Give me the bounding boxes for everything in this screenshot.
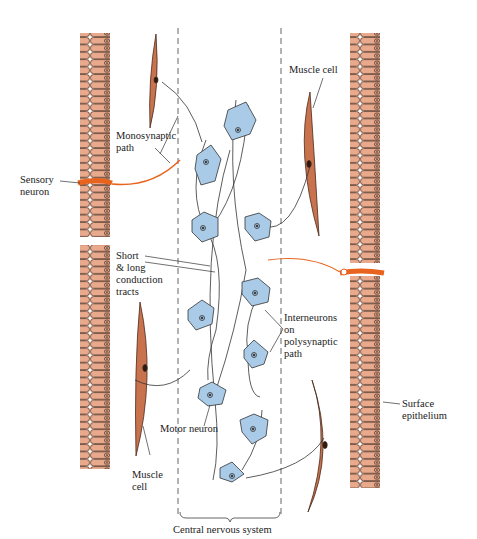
label-central-nervous-system: Central nervous system [173,524,272,536]
label-short-long-tracts: Short & long conduction tracts [116,250,163,298]
muscle-cells [136,34,328,512]
cns-boundary [178,28,281,522]
diagram-canvas [0,0,477,539]
label-surface-epithelium: Surface epithelium [402,398,447,422]
label-monosynaptic-path: Monosynaptic path [116,130,176,154]
label-muscle-cell-top: Muscle cell [289,64,338,76]
reflex-pathway-diagram: Monosynaptic path Sensory neuron Muscle … [0,0,477,539]
label-sensory-neuron: Sensory neuron [20,174,54,198]
label-motor-neuron: Motor neuron [160,423,218,435]
label-muscle-cell-bottom: Muscle cell [132,469,163,493]
left-epithelium [80,33,110,469]
right-epithelium [350,33,380,488]
label-interneurons: Interneurons on polysynaptic path [284,312,338,360]
